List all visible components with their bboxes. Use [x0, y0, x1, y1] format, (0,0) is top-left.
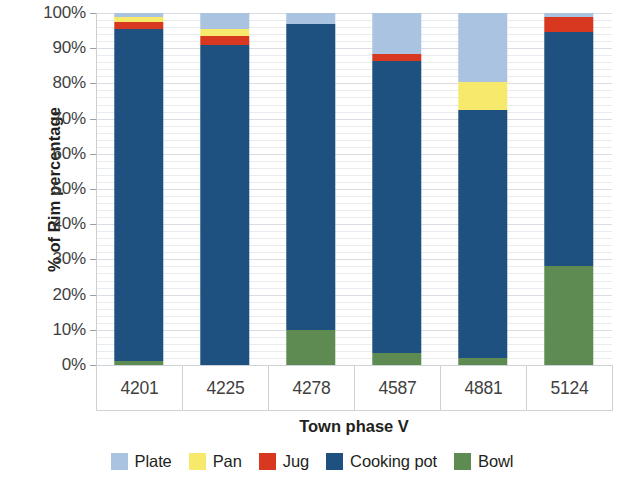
x-axis-category-label: 5124	[527, 365, 613, 411]
stacked-bar[interactable]	[286, 13, 335, 365]
legend-item-cooking-pot[interactable]: Cooking pot	[326, 452, 437, 471]
bar-slot	[354, 13, 440, 365]
x-axis-category-label: 4587	[355, 365, 441, 411]
stacked-bar[interactable]	[372, 13, 421, 365]
y-axis-tick-label: 80%	[53, 73, 86, 93]
bar-segment-bowl[interactable]	[544, 266, 593, 365]
bar-segment-cooking-pot[interactable]	[286, 24, 335, 330]
bar-segment-plate[interactable]	[286, 13, 335, 24]
chart-legend: PlatePanJugCooking potBowl	[0, 452, 624, 471]
bar-segment-plate[interactable]	[458, 13, 507, 82]
plot-area	[96, 13, 612, 365]
bar-slot	[182, 13, 268, 365]
bar-segment-bowl[interactable]	[458, 358, 507, 365]
y-axis-tick-label: 20%	[53, 285, 86, 305]
bar-segment-pan[interactable]	[458, 82, 507, 110]
legend-swatch-icon	[111, 453, 128, 470]
bar-segment-jug[interactable]	[372, 54, 421, 61]
bar-segment-jug[interactable]	[544, 17, 593, 33]
bar-segment-cooking-pot[interactable]	[372, 61, 421, 353]
bar-segment-cooking-pot[interactable]	[114, 29, 163, 362]
stacked-bar[interactable]	[114, 13, 163, 365]
bar-segment-plate[interactable]	[372, 13, 421, 53]
y-axis-tick-label: 30%	[53, 249, 86, 269]
legend-label: Plate	[135, 452, 172, 471]
x-axis-title: Town phase V	[96, 417, 612, 436]
y-axis-tick-label: 90%	[53, 38, 86, 58]
y-axis-tick-label: 0%	[62, 355, 86, 375]
legend-item-bowl[interactable]: Bowl	[454, 452, 513, 471]
y-axis-tick-label: 70%	[53, 109, 86, 129]
legend-label: Bowl	[478, 452, 513, 471]
bar-segment-jug[interactable]	[200, 36, 249, 45]
x-axis-categories: 420142254278458748815124	[96, 365, 613, 411]
stacked-bar[interactable]	[458, 13, 507, 365]
legend-label: Pan	[213, 452, 242, 471]
stacked-bar[interactable]	[544, 13, 593, 365]
bar-segment-bowl[interactable]	[286, 330, 335, 365]
bar-segment-plate[interactable]	[200, 13, 249, 29]
bar-slot	[440, 13, 526, 365]
legend-swatch-icon	[189, 453, 206, 470]
legend-swatch-icon	[326, 453, 343, 470]
bar-segment-cooking-pot[interactable]	[458, 110, 507, 358]
bar-segment-cooking-pot[interactable]	[200, 45, 249, 365]
legend-swatch-icon	[259, 453, 276, 470]
bar-segment-cooking-pot[interactable]	[544, 32, 593, 266]
legend-swatch-icon	[454, 453, 471, 470]
y-axis-tick-label: 60%	[53, 144, 86, 164]
stacked-bar[interactable]	[200, 13, 249, 365]
y-axis-tick-label: 40%	[53, 214, 86, 234]
legend-item-plate[interactable]: Plate	[111, 452, 172, 471]
x-axis-category-label: 4278	[269, 365, 355, 411]
chart-container: % of Rim percentage 0%10%20%30%40%50%60%…	[0, 0, 624, 487]
y-axis-tick-label: 50%	[53, 179, 86, 199]
y-axis-tick-labels: 0%10%20%30%40%50%60%70%80%90%100%	[0, 0, 96, 487]
bar-slot	[96, 13, 182, 365]
legend-label: Jug	[283, 452, 309, 471]
legend-label: Cooking pot	[350, 452, 437, 471]
y-axis-tick-label: 100%	[43, 3, 86, 23]
x-axis-category-label: 4881	[441, 365, 527, 411]
x-axis-category-label: 4225	[183, 365, 269, 411]
x-axis-category-label: 4201	[97, 365, 183, 411]
bar-segment-jug[interactable]	[114, 22, 163, 29]
legend-item-jug[interactable]: Jug	[259, 452, 309, 471]
bar-group	[96, 13, 612, 365]
bar-segment-pan[interactable]	[200, 29, 249, 36]
legend-item-pan[interactable]: Pan	[189, 452, 242, 471]
bar-segment-bowl[interactable]	[372, 353, 421, 365]
y-axis-tick-label: 10%	[53, 320, 86, 340]
bar-slot	[526, 13, 612, 365]
bar-slot	[268, 13, 354, 365]
